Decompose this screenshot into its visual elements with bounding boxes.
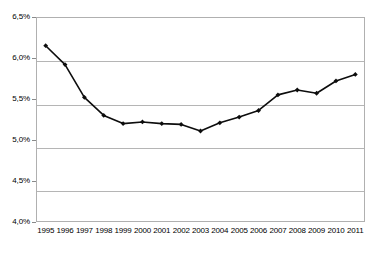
y-axis-tick-mark	[32, 140, 36, 141]
gridline	[37, 148, 364, 149]
plot-area	[36, 17, 365, 222]
gridline	[37, 191, 364, 192]
y-axis-tick-label: 6,5%	[12, 13, 30, 21]
x-axis-tick-label: 2000	[134, 226, 151, 235]
x-axis-tick-label: 2010	[327, 226, 344, 235]
y-axis-tick-mark	[32, 17, 36, 18]
x-axis-tick-label: 2006	[250, 226, 267, 235]
x-axis-tick-label: 2002	[173, 226, 190, 235]
x-axis: 1995199619971998199920002001200220032004…	[36, 226, 365, 246]
y-axis-tick-mark	[32, 58, 36, 59]
x-axis-tick-label: 2003	[192, 226, 209, 235]
line-chart: 6,5%6,0%5,5%5,0%4,5%4,0% 199519961997199…	[0, 0, 379, 262]
y-axis: 6,5%6,0%5,5%5,0%4,5%4,0%	[0, 0, 34, 240]
x-axis-tick-label: 2004	[211, 226, 228, 235]
x-axis-tick-label: 2001	[153, 226, 170, 235]
y-axis-tick-mark	[32, 181, 36, 182]
x-axis-tick-label: 2011	[347, 226, 363, 235]
x-axis-tick-label: 1997	[76, 226, 93, 235]
y-axis-tick-label: 5,5%	[12, 95, 30, 103]
x-axis-tick-label: 1995	[37, 226, 54, 235]
gridline	[37, 105, 364, 106]
y-axis-tick-mark	[32, 222, 36, 223]
x-axis-tick-label: 1996	[57, 226, 74, 235]
x-axis-tick-label: 2005	[231, 226, 248, 235]
x-axis-tick-label: 2009	[308, 226, 325, 235]
x-axis-tick-label: 2008	[289, 226, 306, 235]
y-axis-tick-label: 4,5%	[12, 177, 30, 185]
y-axis-tick-label: 4,0%	[12, 218, 30, 226]
y-axis-tick-label: 6,0%	[12, 54, 30, 62]
x-axis-tick-label: 1999	[115, 226, 132, 235]
x-axis-tick-label: 1998	[95, 226, 112, 235]
y-axis-tick-label: 5,0%	[12, 136, 30, 144]
y-axis-tick-mark	[32, 99, 36, 100]
gridline	[37, 61, 364, 62]
x-axis-tick-label: 2007	[269, 226, 286, 235]
